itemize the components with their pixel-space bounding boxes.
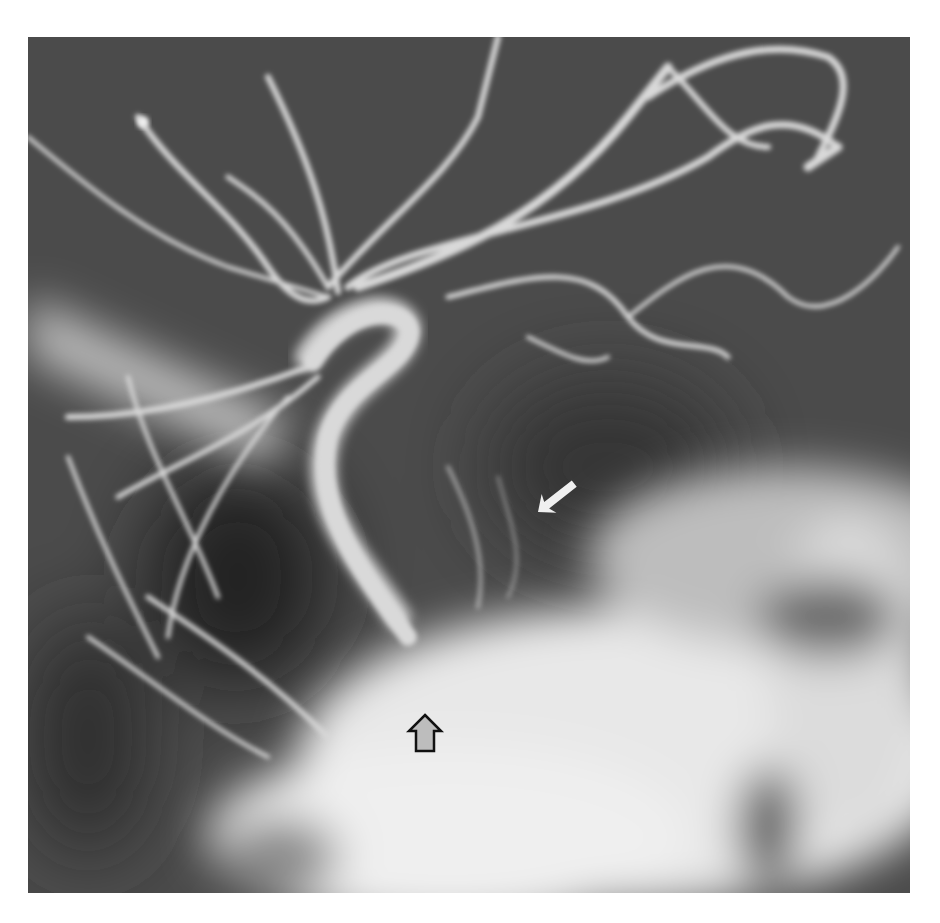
angiogram-image xyxy=(28,37,910,893)
angiogram-svg xyxy=(28,37,910,893)
